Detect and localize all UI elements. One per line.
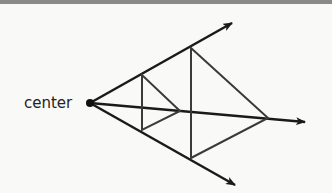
small-triangle xyxy=(142,75,180,130)
dilation-diagram: center xyxy=(0,0,332,193)
rays xyxy=(90,23,305,185)
center-label: center xyxy=(24,94,72,112)
large-triangle xyxy=(191,48,268,158)
center-point xyxy=(86,99,94,107)
ray-lower xyxy=(90,103,235,185)
ray-middle xyxy=(90,103,305,122)
ray-upper xyxy=(90,23,232,103)
